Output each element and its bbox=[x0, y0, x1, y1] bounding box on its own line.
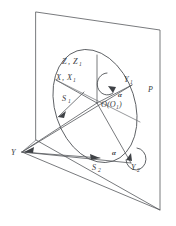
label-axis-z-comma: , bbox=[68, 57, 70, 66]
label-vector-s2-text: S bbox=[92, 163, 96, 172]
label-axis-x1-text: X bbox=[66, 73, 73, 82]
vector-s2-arrowhead bbox=[90, 154, 100, 160]
label-origin-close: ) bbox=[118, 100, 122, 109]
label-axis-z: Z , Z 1 bbox=[62, 57, 82, 67]
label-axis-y1-index: 1 bbox=[130, 79, 133, 85]
label-axis-y2-index: 2 bbox=[137, 167, 140, 173]
label-axis-z-text: Z bbox=[62, 57, 67, 66]
ray-y-upper bbox=[22, 85, 132, 152]
figure-root: Z , Z 1 X , X 1 Y 1 Y 2 O(O 1 ) bbox=[0, 0, 176, 226]
label-vector-s1-index: 1 bbox=[68, 98, 71, 104]
ray-y-to-origin bbox=[22, 103, 97, 152]
label-vector-s2: S 2 bbox=[92, 163, 101, 173]
ray-y-bottom-edge bbox=[22, 152, 160, 210]
label-origin: O(O 1 ) bbox=[101, 100, 122, 110]
label-axis-x-comma: , bbox=[62, 73, 64, 82]
label-angle-alpha-lower: α bbox=[112, 149, 116, 157]
ellipse-group bbox=[39, 38, 151, 173]
label-vector-s1: S 1 bbox=[62, 94, 71, 104]
label-vertex-y: Y bbox=[11, 148, 17, 157]
label-axis-y2: Y 2 bbox=[131, 163, 140, 173]
axes-group bbox=[56, 55, 140, 163]
vector-s1-arrowhead bbox=[58, 111, 66, 118]
label-axis-x: X , X 1 bbox=[55, 73, 76, 83]
label-angle-alpha-upper: α bbox=[118, 91, 122, 99]
label-axis-z1-index: 1 bbox=[79, 61, 82, 67]
angle-alpha-upper-arc bbox=[97, 73, 113, 95]
label-origin-text: O(O bbox=[101, 100, 116, 109]
label-plane-p: P bbox=[147, 85, 153, 94]
projected-circle bbox=[39, 38, 151, 173]
label-axis-z1-text: Z bbox=[73, 57, 78, 66]
label-axis-y1: Y 1 bbox=[124, 75, 133, 85]
angle-alpha-upper-group bbox=[97, 73, 116, 95]
angle-alpha-lower-group bbox=[126, 148, 146, 170]
angle-alpha-upper-arrowhead bbox=[108, 86, 116, 93]
label-vector-s1-text: S bbox=[62, 94, 66, 103]
label-axis-x-text: X bbox=[55, 73, 62, 82]
angle-alpha-lower-arrowhead bbox=[126, 153, 132, 161]
label-vector-s2-index: 2 bbox=[98, 167, 101, 173]
geometry-diagram: Z , Z 1 X , X 1 Y 1 Y 2 O(O 1 ) bbox=[0, 0, 176, 226]
label-axis-x1-index: 1 bbox=[73, 77, 76, 83]
vertex-rays-group bbox=[22, 85, 160, 210]
